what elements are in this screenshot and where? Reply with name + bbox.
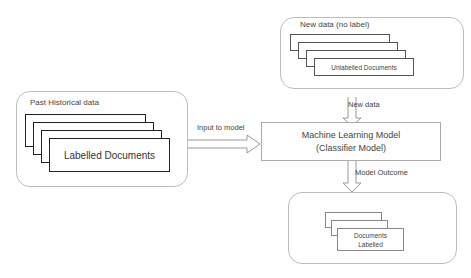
past-data-title: Past Historical data xyxy=(30,98,99,107)
new-data-title: New data (no label) xyxy=(300,20,369,29)
output-doc-label: Documents Labelled xyxy=(338,229,403,250)
input-arrow xyxy=(183,135,260,153)
past-doc-front: Labelled Documents xyxy=(49,138,170,172)
ml-model-subtitle: (Classifier Model) xyxy=(316,142,386,155)
new-doc-label: Unlabelled Documents xyxy=(315,59,413,75)
output-doc-label-line1: Documents xyxy=(354,231,387,240)
new-doc-front: Unlabelled Documents xyxy=(314,58,414,76)
output-doc-label-line2: Labelled xyxy=(358,240,383,249)
input-arrow-label: Input to model xyxy=(197,123,245,132)
outcome-arrow-label: Model Outcome xyxy=(355,168,408,177)
output-doc-front: Documents Labelled xyxy=(337,228,404,251)
ml-model-title: Machine Learning Model xyxy=(302,129,401,142)
ml-model-box: Machine Learning Model (Classifier Model… xyxy=(261,122,441,161)
past-doc-label: Labelled Documents xyxy=(50,139,169,171)
new-data-arrow-label: New data xyxy=(348,100,380,109)
